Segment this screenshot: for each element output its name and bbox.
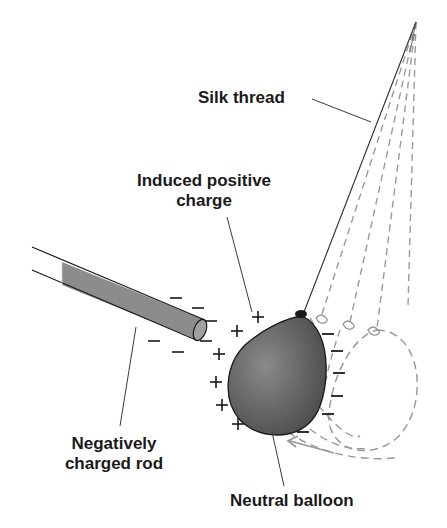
balloon-knot <box>295 310 307 318</box>
silk-thread <box>304 22 416 312</box>
charged-rod <box>32 247 209 342</box>
induction-diagram: Silk thread Induced positive charge Nega… <box>0 0 447 528</box>
label-negatively-charged-rod: Negatively charged rod <box>52 434 176 474</box>
leader-lines <box>120 99 371 486</box>
label-induced-line2: charge <box>118 191 290 211</box>
label-silk-thread: Silk thread <box>198 88 285 108</box>
label-induced-positive-charge: Induced positive charge <box>118 171 290 211</box>
label-rod-line2: charged rod <box>52 454 176 474</box>
balloon <box>228 316 326 435</box>
label-induced-line1: Induced positive <box>118 171 290 191</box>
label-neutral-balloon: Neutral balloon <box>230 491 354 511</box>
ghost-threads <box>322 22 416 328</box>
label-rod-line1: Negatively <box>52 434 176 454</box>
ghost-knots <box>316 315 379 335</box>
ghost-balloon <box>329 330 418 451</box>
